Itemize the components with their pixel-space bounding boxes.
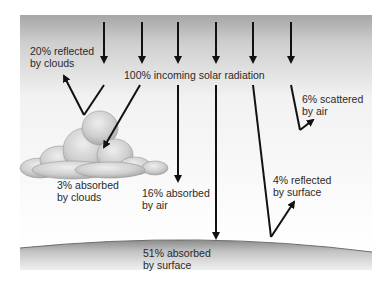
label-reflected-by-clouds: 20% reflected by clouds xyxy=(30,45,94,69)
label-scattered-by-air: 6% scattered by air xyxy=(302,93,363,117)
label-absorbed-by-surface: 51% absorbed by surface xyxy=(143,247,211,271)
label-absorbed-by-air: 16% absorbed by air xyxy=(142,187,210,211)
title-incoming-radiation: 100% incoming solar radiation xyxy=(124,69,265,81)
solar-radiation-diagram xyxy=(0,0,386,287)
label-absorbed-by-clouds: 3% absorbed by clouds xyxy=(57,179,119,203)
label-reflected-by-surface: 4% reflected by surface xyxy=(273,174,331,198)
